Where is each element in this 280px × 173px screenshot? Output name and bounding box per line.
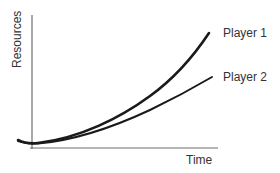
player-2-curve xyxy=(18,77,212,144)
y-axis-title: Resources xyxy=(10,11,24,68)
x-axis-title: Time xyxy=(186,153,213,167)
resources-over-time-diagram: Player 1 Player 2 Time Resources xyxy=(0,0,280,173)
player-1-label: Player 1 xyxy=(223,26,267,40)
player-2-label: Player 2 xyxy=(223,70,267,84)
player-1-curve xyxy=(18,33,209,143)
